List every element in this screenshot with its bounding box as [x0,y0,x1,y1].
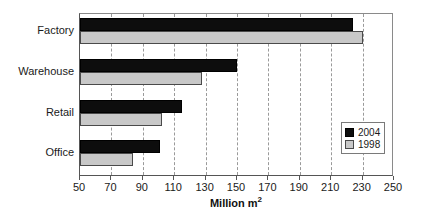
x-tick-label-70: 70 [104,181,116,193]
bar-retail-2004 [80,100,182,113]
x-axis-title-superscript: 2 [258,195,262,204]
y-axis-label-office: Office [0,146,74,158]
x-tick-label-190: 190 [290,181,308,193]
x-tick-mark [267,176,268,180]
y-axis-label-warehouse: Warehouse [0,65,74,77]
x-axis-title: Million m2 [79,197,393,209]
x-tick-label-150: 150 [227,181,245,193]
legend-item-1998: 1998 [345,138,380,150]
x-tick-mark [299,176,300,180]
x-tick-label-50: 50 [73,181,85,193]
x-tick-mark [173,176,174,180]
legend-label-2004: 2004 [358,127,380,138]
x-tick-mark [110,176,111,180]
x-tick-mark [79,176,80,180]
x-axis-title-text: Million m [210,197,258,209]
bar-office-2004 [80,140,160,153]
y-axis-label-factory: Factory [0,24,74,36]
x-tick-mark [236,176,237,180]
bar-warehouse-1998 [80,72,202,85]
bar-warehouse-2004 [80,59,237,72]
legend-label-1998: 1998 [358,139,380,150]
legend: 20041998 [341,122,385,154]
x-tick-label-130: 130 [195,181,213,193]
black-square-swatch [345,128,354,137]
bar-chart: FactoryWarehouseRetailOffice 50709011013… [0,0,421,222]
x-tick-mark [362,176,363,180]
bar-office-1998 [80,153,133,166]
x-tick-label-170: 170 [258,181,276,193]
x-tick-label-90: 90 [136,181,148,193]
x-tick-mark [142,176,143,180]
bar-factory-2004 [80,18,353,31]
x-tick-label-250: 250 [384,181,402,193]
bar-factory-1998 [80,31,363,44]
y-axis-label-retail: Retail [0,106,74,118]
legend-item-2004: 2004 [345,126,380,138]
x-tick-mark [205,176,206,180]
y-axis-category-labels: FactoryWarehouseRetailOffice [0,13,74,176]
x-axis-ticks: 507090110130150170190210230250 [79,176,393,198]
x-tick-mark [330,176,331,180]
x-tick-label-210: 210 [321,181,339,193]
x-tick-label-230: 230 [352,181,370,193]
bar-retail-1998 [80,113,162,126]
x-tick-mark [393,176,394,180]
gray-square-swatch [345,140,354,149]
x-tick-label-110: 110 [164,181,182,193]
